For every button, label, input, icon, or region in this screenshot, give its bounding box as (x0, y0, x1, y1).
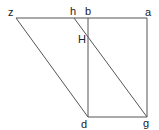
label-h: h (70, 6, 76, 17)
label-H: H (78, 34, 86, 45)
geometry-figure (0, 0, 159, 130)
label-b: b (85, 6, 91, 17)
label-z: z (8, 7, 14, 18)
label-a: a (145, 7, 151, 18)
label-d: d (81, 119, 87, 130)
label-g: g (143, 118, 149, 129)
